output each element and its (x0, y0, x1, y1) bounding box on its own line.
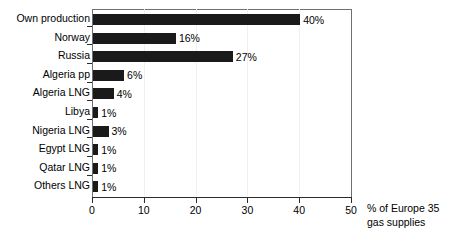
category-tick (87, 156, 92, 157)
category-label: Nigeria LNG (0, 123, 90, 137)
category-tick (87, 63, 92, 64)
bar (93, 70, 124, 81)
bar-chart: 40%16%27%6%4%1%3%1%1%1% Own productionNo… (0, 0, 455, 243)
category-tick (87, 82, 92, 83)
bar-value-label: 6% (127, 67, 142, 83)
bar-value-label: 16% (179, 30, 200, 46)
bar-value-label: 4% (117, 86, 132, 102)
bar (93, 163, 98, 174)
gridline (247, 9, 248, 197)
category-label: Algeria pp (0, 67, 90, 81)
category-label: Qatar LNG (0, 160, 90, 174)
category-label: Russia (0, 48, 90, 62)
category-label: Egypt LNG (0, 141, 90, 155)
value-tick-label: 10 (124, 203, 164, 217)
category-tick (87, 175, 92, 176)
category-label: Others LNG (0, 178, 90, 192)
bar-value-label: 40% (303, 12, 324, 28)
gridline (299, 9, 300, 197)
bar-value-label: 1% (101, 105, 116, 121)
category-label: Algeria LNG (0, 85, 90, 99)
bar (93, 88, 114, 99)
bar-value-label: 1% (101, 160, 116, 176)
bar-value-label: 1% (101, 142, 116, 158)
category-label: Own production (0, 11, 90, 25)
value-tick-label: 20 (176, 203, 216, 217)
value-tick-label: 0 (72, 203, 112, 217)
category-tick (87, 137, 92, 138)
axis-title-line-1: % of Europe 35 (367, 202, 455, 216)
category-tick (87, 26, 92, 27)
bar-value-label: 27% (236, 49, 257, 65)
bar (93, 126, 109, 137)
bar (93, 107, 98, 118)
plot-area: 40%16%27%6%4%1%3%1%1%1% (92, 9, 352, 198)
axis-title-line-2: gas supplies (367, 216, 455, 230)
category-label: Libya (0, 104, 90, 118)
category-label: Norway (0, 30, 90, 44)
category-axis-line (92, 197, 352, 198)
plot-frame-top (92, 9, 352, 10)
bar-value-label: 1% (101, 179, 116, 195)
bar (93, 14, 300, 25)
value-tick-label: 40 (279, 203, 319, 217)
value-tick-label: 50 (331, 203, 371, 217)
bar (93, 181, 98, 192)
value-axis-title: % of Europe 35 gas supplies (367, 202, 455, 229)
bar (93, 33, 176, 44)
value-tick-label: 30 (227, 203, 267, 217)
category-tick (87, 100, 92, 101)
plot-frame-right (351, 9, 352, 198)
bar (93, 51, 233, 62)
category-tick (87, 119, 92, 120)
bar-value-label: 3% (112, 123, 127, 139)
bar (93, 144, 98, 155)
category-tick (87, 44, 92, 45)
